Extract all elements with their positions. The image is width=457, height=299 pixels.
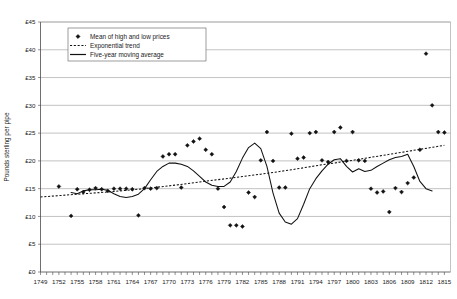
x-tick-label: 1776: [199, 278, 213, 285]
data-point-marker: [210, 152, 214, 156]
x-tick-label: 1788: [272, 278, 286, 285]
x-tick-label: 1797: [327, 278, 341, 285]
legend-label: Five-year moving average: [90, 51, 164, 59]
data-point-marker: [375, 191, 379, 195]
x-tick-marks: [41, 272, 445, 275]
x-tick-label: 1806: [382, 278, 396, 285]
data-point-marker: [430, 103, 434, 107]
x-tick-label: 1764: [125, 278, 139, 285]
data-point-marker: [271, 159, 275, 163]
y-tick-label: £40: [25, 46, 36, 53]
data-point-marker: [369, 187, 373, 191]
y-tick-label: £30: [25, 102, 36, 109]
data-point-marker: [228, 223, 232, 227]
data-point-marker: [118, 187, 122, 191]
x-tick-label: 1758: [89, 278, 103, 285]
data-point-marker: [185, 143, 189, 147]
x-tick-label: 1809: [401, 278, 415, 285]
y-axis-title-text: Pounds sterling per pipe: [3, 112, 11, 181]
data-point-marker: [259, 158, 263, 162]
data-point-marker: [400, 190, 404, 194]
data-point-marker: [198, 137, 202, 141]
x-tick-label: 1812: [419, 278, 433, 285]
data-point-marker: [112, 187, 116, 191]
x-tick-label: 1800: [346, 278, 360, 285]
y-tick-label: £25: [25, 129, 36, 136]
y-tick-label: £15: [25, 185, 36, 192]
price-chart: £0£5£10£15£20£25£30£35£40£45 17491752175…: [0, 0, 457, 299]
x-tick-label: 1749: [34, 278, 48, 285]
legend-label: Mean of high and low prices: [90, 33, 170, 41]
data-point-marker: [222, 205, 226, 209]
data-point-marker: [320, 158, 324, 162]
y-tick-label: £10: [25, 213, 36, 220]
data-point-marker: [418, 148, 422, 152]
x-tick-label: 1773: [180, 278, 194, 285]
data-point-marker: [424, 52, 428, 56]
data-point-marker: [234, 223, 238, 227]
data-point-marker: [357, 158, 361, 162]
data-point-marker: [381, 189, 385, 193]
moving-average-path: [71, 143, 432, 224]
data-point-marker: [308, 131, 312, 135]
x-tick-label: 1752: [52, 278, 66, 285]
data-point-marker: [393, 186, 397, 190]
data-point-marker: [338, 126, 342, 130]
legend-label: Exponential trend: [90, 42, 140, 50]
x-tick-labels: 1749175217551758176117641767177017731776…: [34, 278, 452, 285]
data-point-marker: [167, 152, 171, 156]
mean-price-scatter-series: [57, 52, 446, 229]
five-year-moving-average-series: [71, 143, 432, 224]
y-axis-title: Pounds sterling per pipe: [3, 112, 11, 181]
data-point-marker: [363, 159, 367, 163]
data-point-marker: [204, 148, 208, 152]
data-point-marker: [296, 157, 300, 161]
x-tick-label: 1755: [70, 278, 84, 285]
x-tick-label: 1770: [162, 278, 176, 285]
data-point-marker: [253, 195, 257, 199]
x-tick-label: 1791: [291, 278, 305, 285]
data-point-marker: [75, 187, 79, 191]
y-tick-label: £45: [25, 18, 36, 25]
data-point-marker: [192, 139, 196, 143]
x-tick-label: 1785: [254, 278, 268, 285]
y-tick-labels: £0£5£10£15£20£25£30£35£40£45: [25, 18, 40, 275]
data-point-marker: [69, 214, 73, 218]
data-point-marker: [412, 176, 416, 180]
data-point-marker: [289, 132, 293, 136]
data-point-marker: [216, 187, 220, 191]
data-point-marker: [247, 191, 251, 195]
x-tick-label: 1767: [144, 278, 158, 285]
chart-container: £0£5£10£15£20£25£30£35£40£45 17491752175…: [0, 0, 457, 299]
data-point-marker: [57, 184, 61, 188]
x-tick-label: 1794: [309, 278, 323, 285]
data-point-marker: [406, 181, 410, 185]
y-tick-label: £5: [29, 240, 36, 247]
data-point-marker: [173, 152, 177, 156]
data-point-marker: [302, 156, 306, 160]
data-point-marker: [442, 131, 446, 135]
data-point-marker: [100, 187, 104, 191]
x-tick-label: 1815: [437, 278, 451, 285]
data-point-marker: [240, 224, 244, 228]
chart-legend: Mean of high and low pricesExponential t…: [68, 28, 206, 61]
data-point-marker: [345, 159, 349, 163]
x-tick-label: 1803: [364, 278, 378, 285]
data-point-marker: [387, 210, 391, 214]
x-tick-label: 1761: [107, 278, 121, 285]
y-tick-label: £0: [29, 268, 36, 275]
y-tick-label: £35: [25, 74, 36, 81]
y-tick-label: £20: [25, 157, 36, 164]
data-point-marker: [130, 187, 134, 191]
x-tick-label: 1779: [217, 278, 231, 285]
data-point-marker: [161, 154, 165, 158]
x-tick-label: 1782: [236, 278, 250, 285]
